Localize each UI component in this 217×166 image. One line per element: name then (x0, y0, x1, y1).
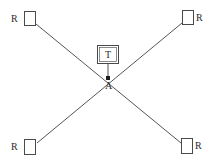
label-r-bottom-left: R (11, 142, 18, 152)
label-r-top-right: R (196, 13, 203, 23)
node-box-r-bottom-right (182, 139, 193, 154)
node-box-r-bottom-left (25, 140, 36, 155)
label-r-top-left: R (11, 14, 18, 24)
label-t-center: T (105, 50, 111, 60)
node-box-r-top-left (25, 12, 36, 26)
antenna-diagram: R R R R T A (0, 0, 217, 166)
label-a-junction: A (105, 81, 112, 91)
label-r-bottom-right: R (195, 141, 202, 151)
node-box-r-top-right (183, 11, 194, 25)
